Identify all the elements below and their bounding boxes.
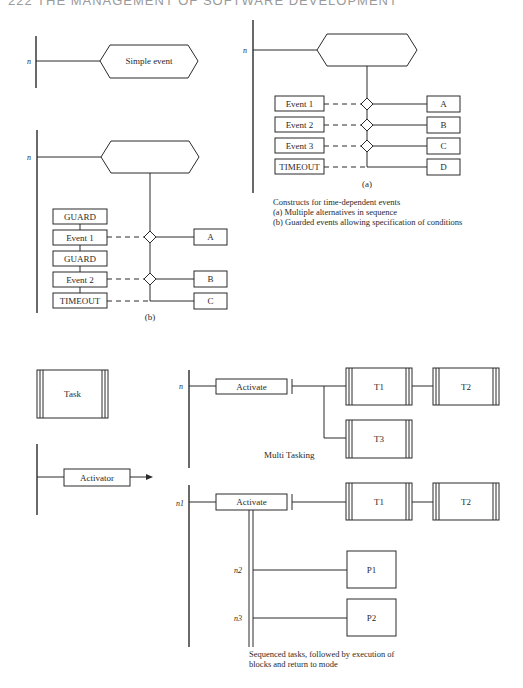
svg-text:B: B xyxy=(207,274,213,284)
svg-text:T2: T2 xyxy=(461,497,471,507)
svg-text:Event 1: Event 1 xyxy=(286,99,314,109)
svg-text:Event 3: Event 3 xyxy=(286,141,314,151)
svg-text:C: C xyxy=(440,141,446,151)
svg-text:P1: P1 xyxy=(367,565,377,575)
task-box-t2: T2 xyxy=(433,483,499,520)
svg-text:A: A xyxy=(440,99,447,109)
event-hexagon xyxy=(317,34,417,66)
svg-text:B: B xyxy=(440,120,446,130)
svg-text:C: C xyxy=(207,296,213,306)
simple-event-diagram: n Simple event xyxy=(27,36,198,88)
diagram-b-guarded-events: n GUARD Event 1 A GUARD Event 2 B TIMEOU… xyxy=(27,130,227,322)
event-label: Simple event xyxy=(125,56,173,66)
node-label: n xyxy=(27,153,31,162)
node-label-n2: n2 xyxy=(234,566,242,575)
node-label-n3: n3 xyxy=(234,614,242,623)
activator-symbol: Activator xyxy=(37,444,153,515)
svg-text:T1: T1 xyxy=(374,382,384,392)
decision-diamond xyxy=(144,273,156,285)
svg-text:A: A xyxy=(207,232,214,242)
task-box-t1: T1 xyxy=(346,483,412,520)
svg-text:T1: T1 xyxy=(374,497,384,507)
svg-text:TIMEOUT: TIMEOUT xyxy=(279,162,320,172)
svg-text:D: D xyxy=(440,162,447,172)
multi-tasking-diagram: n Activate T1 T2 xyxy=(179,368,499,468)
svg-text:Activate: Activate xyxy=(236,497,267,507)
activator-label: Activator xyxy=(80,473,114,483)
caption-line: (a) Multiple alternatives in sequence xyxy=(273,207,462,217)
task-box-t1: T1 xyxy=(346,368,412,405)
caption-line: blocks and return to mode xyxy=(249,659,394,669)
svg-text:TIMEOUT: TIMEOUT xyxy=(60,296,101,306)
task-label: Task xyxy=(64,389,81,399)
svg-text:Event 1: Event 1 xyxy=(66,233,94,243)
svg-text:GUARD: GUARD xyxy=(64,212,97,222)
task-box-t3: T3 xyxy=(346,420,412,458)
events-caption: Constructs for time-dependent events (a)… xyxy=(273,197,462,227)
caption-line: Constructs for time-dependent events xyxy=(273,197,462,207)
node-label: n xyxy=(27,57,31,66)
node-label: n xyxy=(179,382,183,391)
task-box-t2: T2 xyxy=(433,368,499,405)
caption-line: Sequenced tasks, followed by execution o… xyxy=(249,649,394,659)
diagram-canvas: n Simple event n Event 1 A Event 2 B Eve… xyxy=(0,0,523,688)
event-hexagon xyxy=(101,141,199,173)
svg-text:T3: T3 xyxy=(374,434,384,444)
svg-text:P2: P2 xyxy=(367,613,377,623)
sublabel-a: (a) xyxy=(362,179,372,189)
node-label: n xyxy=(243,46,247,55)
arrow-icon xyxy=(146,474,153,480)
svg-text:GUARD: GUARD xyxy=(64,254,97,264)
svg-text:T2: T2 xyxy=(461,382,471,392)
multi-tasking-caption: Multi Tasking xyxy=(264,450,315,460)
node-label-n1: n1 xyxy=(176,499,184,508)
sublabel-b: (b) xyxy=(145,312,156,322)
diagram-a-multiple-alternatives: n Event 1 A Event 2 B Event 3 C TIMEOUT xyxy=(243,20,460,193)
decision-diamond xyxy=(361,119,373,131)
task-symbol: Task xyxy=(37,370,108,418)
svg-text:Activate: Activate xyxy=(236,382,267,392)
svg-text:Event 2: Event 2 xyxy=(66,275,94,285)
sequenced-caption: Sequenced tasks, followed by execution o… xyxy=(249,649,394,669)
decision-diamond xyxy=(361,98,373,110)
decision-diamond xyxy=(361,140,373,152)
svg-text:Event 2: Event 2 xyxy=(286,120,314,130)
sequenced-tasks-diagram: n1 Activate T1 T2 n2 P1 n3 xyxy=(176,483,499,647)
caption-line: (b) Guarded events allowing specificatio… xyxy=(273,217,462,227)
decision-diamond xyxy=(144,231,156,243)
